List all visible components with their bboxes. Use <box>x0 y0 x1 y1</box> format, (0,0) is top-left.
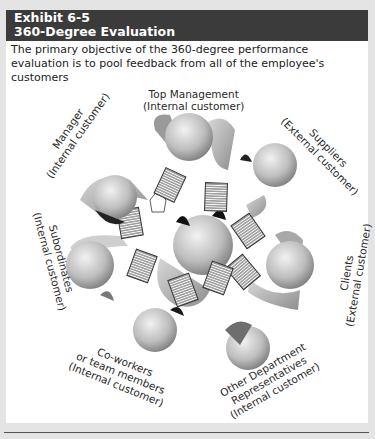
exhibit-number: Exhibit 6-5 <box>14 11 368 25</box>
label-top-management: Top Management (Internal customer) <box>143 88 244 112</box>
exhibit-caption: The primary objective of the 360-degree … <box>6 41 368 85</box>
exhibit-title: 360-Degree Evaluation <box>14 25 368 39</box>
exhibit-header: Exhibit 6-5 360-Degree Evaluation <box>6 10 368 41</box>
bottom-divider <box>4 432 369 433</box>
